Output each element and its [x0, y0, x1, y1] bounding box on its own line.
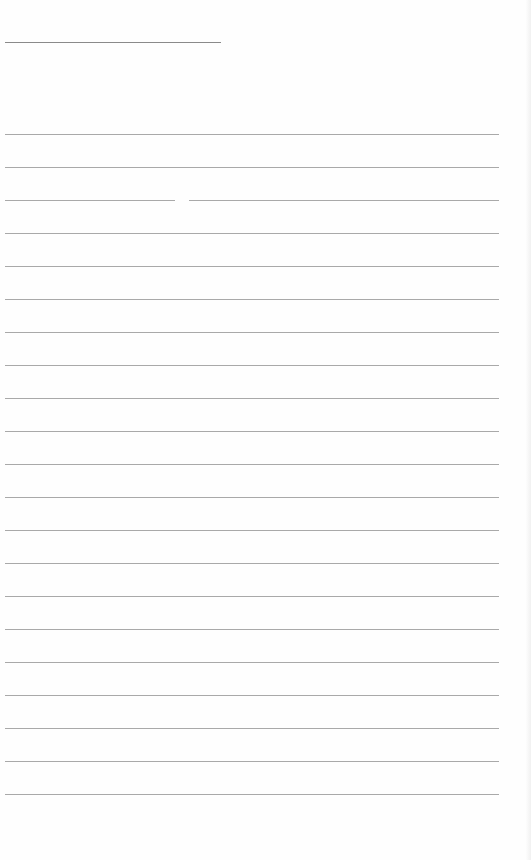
ruled-line: [5, 233, 499, 234]
ruled-line: [5, 266, 499, 267]
ruled-line: [5, 464, 499, 465]
ruled-line: [5, 563, 499, 564]
ruled-line: [5, 365, 499, 366]
ruled-line: [5, 200, 499, 201]
ruled-line: [5, 332, 499, 333]
lined-paper-page: [0, 0, 531, 860]
ruled-line: [5, 134, 499, 135]
ruled-line: [5, 728, 499, 729]
ruled-line: [5, 794, 499, 795]
ruled-line: [5, 596, 499, 597]
page-edge-shadow: [525, 0, 531, 860]
ruled-line: [5, 167, 499, 168]
ruled-line: [5, 761, 499, 762]
ruled-line: [5, 398, 499, 399]
ruled-line: [5, 695, 499, 696]
header-name-line: [5, 42, 221, 43]
ruled-line: [5, 497, 499, 498]
ruled-line: [5, 299, 499, 300]
ruled-line: [5, 629, 499, 630]
ruled-line: [5, 662, 499, 663]
ruled-line: [5, 530, 499, 531]
ruled-line: [5, 431, 499, 432]
